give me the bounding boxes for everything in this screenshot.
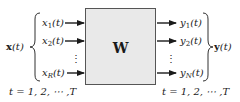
block-label: W	[86, 40, 155, 56]
input-ellipsis: ⋮	[71, 54, 77, 64]
input-time-range: t = 1, 2, ⋯ ,T	[9, 87, 76, 97]
output-ellipsis: ⋮	[166, 54, 172, 64]
output-vector-label: y(t)	[214, 42, 232, 52]
weight-matrix-block: W	[85, 8, 156, 85]
input-x1: x1(t)	[42, 18, 64, 31]
left-brace	[30, 13, 40, 81]
output-y1: y1(t)	[180, 18, 202, 31]
right-brace	[203, 13, 213, 81]
input-x2: x2(t)	[42, 36, 64, 49]
input-vector-label: x(t)	[6, 42, 24, 52]
output-yN: yN(t)	[180, 68, 204, 81]
output-y2: y2(t)	[180, 36, 202, 49]
output-time-range: t = 1, 2, ⋯ ,T	[162, 87, 229, 97]
input-xR: xR(t)	[42, 68, 65, 81]
